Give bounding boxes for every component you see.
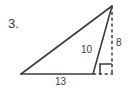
- altitude-length-label: 8: [116, 37, 122, 48]
- geometry-figure: 3. 13 10 8: [0, 0, 138, 92]
- problem-number: 3.: [8, 16, 19, 31]
- hypotenuse-line: [21, 6, 112, 74]
- cevian-length-label: 10: [81, 44, 92, 55]
- base-length-label: 13: [55, 76, 66, 87]
- right-angle-marker-icon: [100, 64, 111, 74]
